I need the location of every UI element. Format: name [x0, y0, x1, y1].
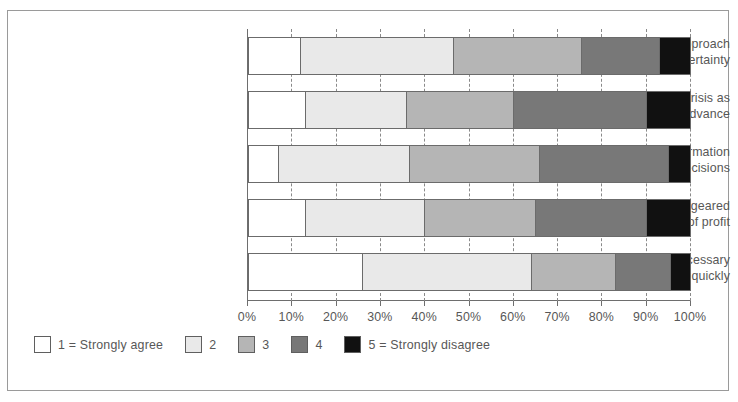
bar-row [248, 37, 691, 75]
bar-row [248, 145, 691, 183]
chart-legend: 1 = Strongly agree2345 = Strongly disagr… [34, 336, 512, 353]
bar-segment [424, 199, 536, 237]
bar-segment [248, 91, 306, 129]
bar-segment [248, 253, 363, 291]
bar-segment [409, 145, 541, 183]
bar-segment [646, 199, 691, 237]
bar-segment [248, 37, 301, 75]
bar-segment [513, 91, 647, 129]
legend-item: 4 [291, 336, 322, 353]
bar-segment [581, 37, 660, 75]
legend-swatch-icon [344, 336, 361, 353]
legend-label: 5 = Strongly disagree [368, 338, 490, 352]
bar-segment [646, 91, 691, 129]
x-axis-tick [557, 301, 558, 306]
legend-swatch-icon [34, 336, 51, 353]
bar-segment [659, 37, 691, 75]
bar-segment [278, 145, 410, 183]
x-axis-tick [513, 301, 514, 306]
x-axis-tick-label: 100% [660, 310, 720, 324]
bar-segment [453, 37, 582, 75]
legend-swatch-icon [238, 336, 255, 353]
bar-row [248, 91, 691, 129]
legend-item: 3 [238, 336, 269, 353]
bar-segment [668, 145, 691, 183]
stacked-bar-chart: Had a well-developed approach to managin… [8, 11, 730, 392]
x-axis-tick [646, 301, 647, 306]
bar-segment [535, 199, 647, 237]
legend-label: 2 [209, 338, 216, 352]
bar-segment [248, 145, 279, 183]
plot-area: 0%10%20%30%40%50%60%70%80%90%100% [247, 29, 691, 301]
legend-item: 1 = Strongly agree [34, 336, 163, 353]
x-axis-tick [690, 301, 691, 306]
x-axis-tick [469, 301, 470, 306]
chart-frame: Had a well-developed approach to managin… [7, 10, 729, 391]
legend-label: 4 [315, 338, 322, 352]
x-axis-tick [336, 301, 337, 306]
bar-segment [362, 253, 531, 291]
x-axis-tick [380, 301, 381, 306]
bar-segment [670, 253, 691, 291]
legend-label: 1 = Strongly agree [58, 338, 163, 352]
bar-segment [305, 199, 426, 237]
bar-row [248, 253, 691, 291]
bar-segment [248, 199, 306, 237]
bar-segment [406, 91, 513, 129]
bar-segment [615, 253, 671, 291]
x-axis-tick [601, 301, 602, 306]
bar-row [248, 199, 691, 237]
x-axis-tick [247, 301, 248, 306]
legend-item: 5 = Strongly disagree [344, 336, 490, 353]
bar-segment [305, 91, 408, 129]
legend-swatch-icon [185, 336, 202, 353]
x-axis-tick [291, 301, 292, 306]
legend-label: 3 [262, 338, 269, 352]
bar-segment [300, 37, 454, 75]
legend-item: 2 [185, 336, 216, 353]
bar-segment [539, 145, 668, 183]
bar-segment [531, 253, 616, 291]
legend-swatch-icon [291, 336, 308, 353]
x-axis-tick [424, 301, 425, 306]
